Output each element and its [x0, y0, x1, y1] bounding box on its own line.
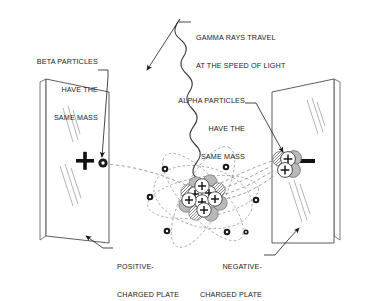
gamma-label-line1: GAMMA RAYS TRAVEL [196, 33, 285, 42]
beta-label: BETA PARTICLES HAVE THE SAME MASS [14, 39, 98, 140]
electron [224, 229, 231, 236]
negative-plate-label: NEGATIVE- CHARGED PLATE [186, 244, 262, 301]
electron [164, 228, 171, 235]
negative-plate-label-line1: NEGATIVE- [186, 262, 262, 271]
beta-particle [98, 158, 107, 167]
electron [243, 229, 248, 234]
beta-label-line1: BETA PARTICLES [14, 57, 98, 66]
positive-plate-label-line1: POSITIVE- [117, 262, 179, 271]
positive-plate-label-line2: CHARGED PLATE [117, 290, 179, 299]
gamma-label-line2: AT THE SPEED OF LIGHT [196, 61, 285, 70]
beta-label-line2: HAVE THE [14, 85, 98, 94]
beta-label-line3: SAME MASS [14, 113, 98, 122]
gamma-leader [147, 22, 178, 70]
alpha-label-line1: ALPHA PARTICLES [161, 96, 245, 105]
alpha-label: ALPHA PARTICLES HAVE THE SAME MASS [161, 78, 245, 179]
alpha-label-line2: HAVE THE [161, 124, 245, 133]
negative-plate-label-line2: CHARGED PLATE [186, 290, 262, 299]
negative-plate-edge [334, 79, 340, 240]
electron [253, 197, 260, 204]
electron [147, 194, 154, 201]
positive-plate-label: POSITIVE- CHARGED PLATE [117, 244, 179, 301]
beta-leader-tick [98, 70, 108, 77]
alpha-label-line3: SAME MASS [161, 152, 245, 161]
